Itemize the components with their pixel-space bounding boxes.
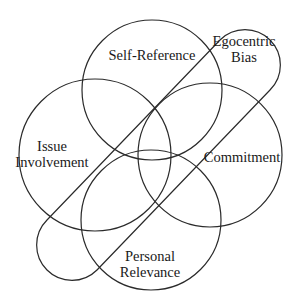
issue-involvement-label-line2: Involvement bbox=[15, 154, 88, 170]
issue-involvement-label: Issue Involvement bbox=[15, 138, 88, 170]
egocentric-bias-label-line2: Bias bbox=[213, 49, 276, 65]
egocentric-bias-label: Egocentric Bias bbox=[213, 33, 276, 65]
issue-involvement-label-line1: Issue bbox=[15, 138, 88, 154]
egocentric-bias-label-line1: Egocentric bbox=[213, 33, 276, 49]
venn-diagram: Self-Reference Issue Involvement Commitm… bbox=[0, 0, 297, 300]
personal-relevance-label-line2: Relevance bbox=[120, 264, 180, 280]
personal-relevance-label-line1: Personal bbox=[120, 248, 180, 264]
self-reference-circle bbox=[82, 20, 222, 160]
commitment-label: Commitment bbox=[204, 149, 281, 165]
self-reference-label: Self-Reference bbox=[109, 47, 196, 63]
personal-relevance-label: Personal Relevance bbox=[120, 248, 180, 280]
